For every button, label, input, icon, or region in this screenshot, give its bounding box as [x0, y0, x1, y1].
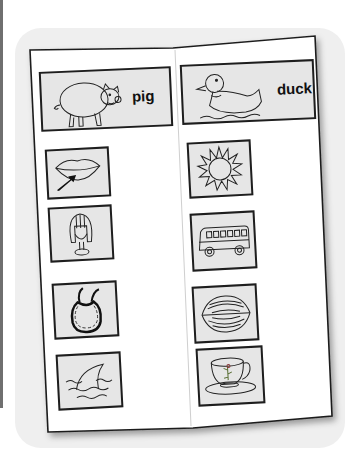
picture-tile-bib [52, 280, 120, 339]
picture-tile-sun [187, 139, 254, 198]
bus-icon [194, 222, 254, 261]
picture-tile-cup [196, 345, 266, 406]
sun-icon [195, 144, 245, 194]
pig-icon [47, 72, 129, 131]
picture-tile-fin [56, 351, 124, 410]
picture-tile-lips [45, 146, 112, 199]
pig-word: pig [132, 87, 155, 105]
hair-wig-icon [60, 208, 102, 258]
duck-icon [190, 65, 276, 125]
duck-word: duck [277, 79, 313, 98]
duck-header-panel: duck [180, 59, 316, 125]
picture-tile-bus [190, 210, 258, 271]
lips-with-arrow-icon [49, 152, 107, 195]
pig-header-panel: pig [39, 66, 173, 132]
teacup-icon [200, 353, 260, 400]
walnut-icon [196, 292, 254, 335]
shark-fin-icon [60, 358, 118, 405]
bib-icon [64, 285, 106, 335]
picture-tile-hair [48, 204, 115, 262]
picture-tile-nut [192, 283, 260, 343]
